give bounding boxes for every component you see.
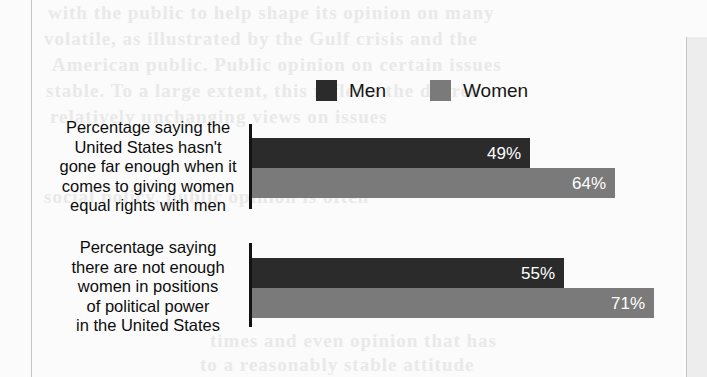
legend-swatch-men bbox=[316, 80, 337, 101]
bar-chart: Men Women Percentage saying the United S… bbox=[0, 0, 707, 377]
bar-group-1-women: 71% bbox=[252, 288, 654, 318]
bar-value-label: 55% bbox=[521, 265, 564, 282]
bar-value-label: 49% bbox=[487, 145, 530, 162]
scanned-page: with the public to help shape its opinio… bbox=[0, 0, 707, 377]
legend-label-women: Women bbox=[463, 81, 528, 100]
bar-group-1-men: 55% bbox=[252, 258, 564, 288]
category-label-0: Percentage saying the United States hasn… bbox=[52, 118, 244, 216]
bar-group-0-women: 64% bbox=[252, 168, 615, 198]
legend-swatch-women bbox=[430, 80, 451, 101]
bar-group-0-men: 49% bbox=[252, 138, 530, 168]
bar-value-label: 64% bbox=[572, 175, 615, 192]
bar-value-label: 71% bbox=[611, 295, 654, 312]
legend-item-men: Men bbox=[316, 80, 386, 101]
category-label-1: Percentage saying there are not enough w… bbox=[52, 238, 244, 336]
chart-legend: Men Women bbox=[316, 80, 528, 101]
legend-label-men: Men bbox=[349, 81, 386, 100]
legend-item-women: Women bbox=[430, 80, 528, 101]
